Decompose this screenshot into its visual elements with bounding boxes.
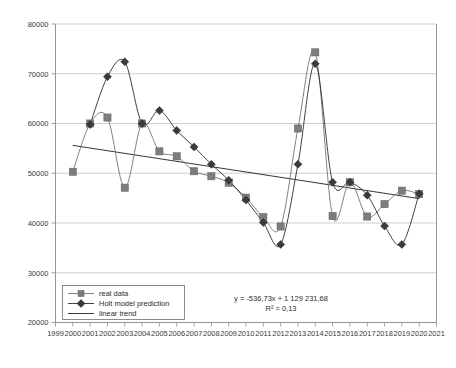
series-markers-holt-model-prediction xyxy=(86,58,423,249)
data-point-holt-model-prediction xyxy=(277,240,285,248)
data-point-holt-model-prediction xyxy=(121,58,129,66)
data-point-real-data xyxy=(190,168,197,175)
y-axis-labels-group: 20000300004000050000600007000080000 xyxy=(28,20,49,328)
x-axis-tick-label: 1999 xyxy=(47,329,64,338)
y-axis-tick-label: 40000 xyxy=(28,219,49,228)
series-line-real-data xyxy=(73,50,419,232)
data-point-real-data xyxy=(312,49,319,56)
y-axis-tick-label: 70000 xyxy=(28,70,49,79)
x-axis-tick-label: 2012 xyxy=(272,329,289,338)
gridlines-group xyxy=(56,24,437,273)
x-axis-tick-label: 2001 xyxy=(82,329,99,338)
chart-container: 20000300004000050000600007000080000 1999… xyxy=(0,0,456,368)
data-point-real-data xyxy=(294,125,301,132)
x-axis-tick-label: 2020 xyxy=(411,329,428,338)
x-axis-tick-label: 2009 xyxy=(220,329,237,338)
data-point-real-data xyxy=(277,223,284,230)
legend-label-linear-trend: linear trend xyxy=(99,309,137,318)
y-axis-tick-label: 30000 xyxy=(28,269,49,278)
data-point-real-data xyxy=(104,114,111,121)
x-axis-tick-label: 2007 xyxy=(186,329,203,338)
x-axis-tick-label: 2013 xyxy=(290,329,307,338)
r-squared-annotation: R² = 0,13 xyxy=(265,304,296,313)
data-point-holt-model-prediction xyxy=(155,107,163,115)
x-axis-tick-label: 2016 xyxy=(342,329,359,338)
y-axis-tick-label: 80000 xyxy=(28,20,49,29)
data-point-real-data xyxy=(173,153,180,160)
y-axis-tick-label: 20000 xyxy=(28,318,49,327)
x-axis-tick-label: 2008 xyxy=(203,329,220,338)
data-point-real-data xyxy=(381,201,388,208)
legend-swatch-marker-real-data xyxy=(78,291,84,297)
chart-legend: real data Holt model prediction linear t… xyxy=(63,286,185,320)
data-point-real-data xyxy=(398,187,405,194)
trend-equation-annotation: y = -536,73x + 1 129 231,68 xyxy=(234,294,328,303)
x-axis-tick-label: 2011 xyxy=(255,329,271,338)
x-axis-tick-label: 2006 xyxy=(168,329,185,338)
x-axis-tick-label: 2010 xyxy=(238,329,255,338)
x-axis-tick-label: 2005 xyxy=(151,329,168,338)
data-point-real-data xyxy=(121,184,128,191)
x-axis-tick-label: 2004 xyxy=(134,329,151,338)
x-axis-tick-label: 2003 xyxy=(116,329,133,338)
x-axis-tick-label: 2019 xyxy=(394,329,411,338)
x-axis-tick-label: 2002 xyxy=(99,329,116,338)
data-point-real-data xyxy=(156,148,163,155)
data-point-holt-model-prediction xyxy=(294,160,302,168)
y-axis-tick-label: 50000 xyxy=(28,169,49,178)
legend-label-holt-model-prediction: Holt model prediction xyxy=(99,299,169,308)
chart-plot: 20000300004000050000600007000080000 1999… xyxy=(0,0,456,368)
legend-label-real-data: real data xyxy=(99,289,129,298)
x-tick-marks-group xyxy=(56,323,437,327)
x-axis-tick-label: 2015 xyxy=(324,329,341,338)
x-axis-tick-label: 2017 xyxy=(359,329,376,338)
x-axis-tick-label: 2014 xyxy=(307,329,324,338)
x-axis-labels-group: 1999200020012002200320042005200620072008… xyxy=(47,329,445,338)
y-axis-tick-label: 60000 xyxy=(28,119,49,128)
data-point-real-data xyxy=(329,212,336,219)
y-tick-marks-group xyxy=(52,24,56,323)
x-axis-tick-label: 2018 xyxy=(376,329,393,338)
data-point-holt-model-prediction xyxy=(398,240,406,248)
x-axis-tick-label: 2000 xyxy=(64,329,81,338)
data-point-real-data xyxy=(69,168,76,175)
data-point-real-data xyxy=(208,173,215,180)
x-axis-tick-label: 2021 xyxy=(428,329,445,338)
data-point-real-data xyxy=(364,213,371,220)
